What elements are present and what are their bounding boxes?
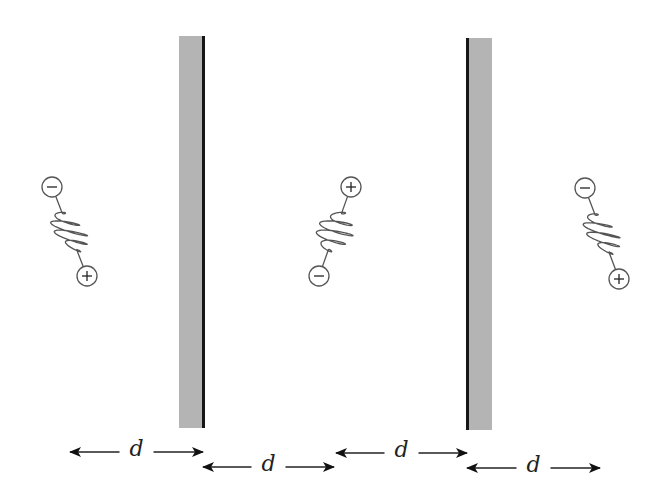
plate-body [179,36,205,428]
plates-layer [179,36,492,430]
dimensions-layer [70,452,600,468]
spring-coil [316,196,353,266]
negative-charge [42,177,62,197]
spring-coil [51,196,88,266]
plate-edge [202,36,205,428]
left-plate [179,36,205,428]
spring-coil [583,197,620,269]
positive-charge [77,266,97,286]
right-plate [466,38,492,430]
distance-label: d [395,439,409,461]
positive-charge [609,269,629,289]
positive-charge [341,177,361,197]
middle-dipole [309,177,361,286]
right-dipole [575,178,629,289]
left-dipole [42,177,97,286]
diagram-svg [0,0,659,501]
diagram-canvas: dddd [0,0,659,501]
plate-body [466,38,492,430]
dipoles-layer [42,177,629,289]
negative-charge [309,266,329,286]
plate-edge [466,38,469,430]
distance-label: d [130,438,144,460]
distance-label: d [262,453,276,475]
distance-label: d [527,454,541,476]
negative-charge [575,178,595,198]
